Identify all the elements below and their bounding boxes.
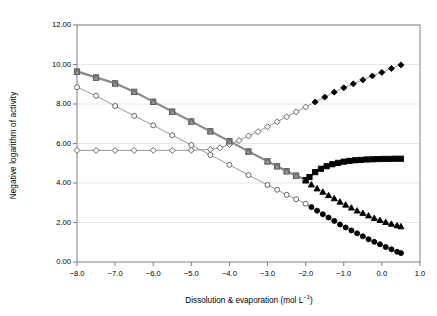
data-point: [347, 158, 352, 163]
data-point: [313, 170, 318, 175]
x-tick-label: 1.0: [406, 269, 434, 278]
data-point: [320, 212, 325, 217]
data-point: [284, 192, 289, 197]
data-point: [331, 89, 337, 95]
series-triangle-series: [74, 69, 404, 229]
data-series-layer: [74, 62, 404, 256]
data-point: [265, 124, 271, 130]
data-point: [337, 222, 342, 227]
data-point: [151, 123, 156, 128]
data-point: [303, 201, 308, 206]
data-point: [369, 73, 375, 79]
data-point: [398, 251, 403, 256]
data-point: [189, 143, 194, 148]
data-point: [335, 160, 340, 165]
data-point: [398, 156, 403, 161]
data-point: [227, 162, 232, 167]
data-point: [349, 228, 354, 233]
data-point: [341, 85, 347, 91]
data-point: [113, 103, 118, 108]
x-tick-label: −2.0: [292, 269, 320, 278]
data-point: [170, 133, 175, 138]
data-point: [353, 158, 358, 163]
data-point: [293, 109, 299, 115]
x-tick-label: −4.0: [215, 269, 243, 278]
series-circle-series: [75, 85, 404, 256]
data-point: [284, 114, 290, 120]
data-point: [308, 182, 314, 187]
data-point: [255, 129, 261, 135]
x-tick-label: −3.0: [254, 269, 282, 278]
y-tick-label: 0.00: [28, 257, 71, 266]
data-point: [366, 237, 371, 242]
data-point: [360, 234, 365, 239]
data-point: [383, 244, 388, 249]
data-point: [355, 231, 360, 236]
gridlines: [77, 25, 420, 223]
data-point: [326, 215, 331, 220]
data-point: [309, 205, 314, 210]
data-point: [350, 81, 356, 87]
data-point: [169, 147, 175, 153]
data-point: [388, 65, 394, 71]
data-point: [265, 182, 270, 187]
data-point: [332, 218, 337, 223]
data-point: [398, 62, 404, 68]
data-point: [314, 186, 320, 191]
x-tick-label: −6.0: [139, 269, 167, 278]
data-point: [275, 187, 280, 192]
data-point: [371, 215, 377, 220]
data-point: [341, 159, 346, 164]
x-axis-label: Dissolution & evaporation (mol L−1): [77, 289, 421, 307]
y-tick-label: 4.00: [28, 178, 71, 187]
data-point: [217, 145, 223, 151]
data-point: [274, 119, 280, 125]
data-point: [132, 113, 137, 118]
data-point: [320, 189, 326, 194]
data-point: [93, 147, 99, 153]
data-point: [246, 133, 252, 139]
data-point: [364, 157, 369, 162]
y-tick-label: 6.00: [28, 139, 71, 148]
data-point: [74, 147, 80, 153]
data-point: [330, 162, 335, 167]
x-axis-label-text: Dissolution & evaporation (mol L−1): [185, 296, 312, 305]
data-point: [377, 242, 382, 247]
data-point: [326, 192, 332, 197]
data-point: [246, 173, 251, 178]
data-point: [366, 213, 372, 218]
data-point: [207, 146, 213, 152]
series-diamond-series: [74, 62, 404, 154]
data-point: [75, 85, 80, 90]
x-tick-label: 0.0: [368, 269, 396, 278]
y-tick-label: 10.00: [28, 60, 71, 69]
data-point: [393, 156, 398, 161]
y-axis-label: Negative logarithm of activity: [0, 0, 28, 290]
data-point: [322, 94, 328, 100]
data-point: [94, 93, 99, 98]
data-point: [370, 157, 375, 162]
chart-figure: Negative logarithm of activity Dissoluti…: [0, 0, 437, 316]
data-point: [331, 195, 337, 200]
data-point: [315, 208, 320, 213]
data-point: [358, 157, 363, 162]
data-point: [375, 157, 380, 162]
y-tick-label: 8.00: [28, 99, 71, 108]
x-tick-label: −5.0: [177, 269, 205, 278]
data-point: [294, 197, 299, 202]
x-tick-label: −7.0: [101, 269, 129, 278]
y-axis-label-text: Negative logarithm of activity: [10, 91, 19, 199]
data-point: [360, 77, 366, 83]
y-tick-label: 2.00: [28, 218, 71, 227]
data-point: [150, 147, 156, 153]
data-point: [337, 199, 343, 204]
x-tick-label: −1.0: [330, 269, 358, 278]
data-point: [303, 104, 309, 110]
data-point: [112, 147, 118, 153]
data-point: [387, 156, 392, 161]
data-point: [324, 164, 329, 169]
data-point: [208, 152, 213, 157]
data-point: [131, 147, 137, 153]
x-axis-ticks: [77, 262, 420, 266]
data-point: [379, 69, 385, 75]
